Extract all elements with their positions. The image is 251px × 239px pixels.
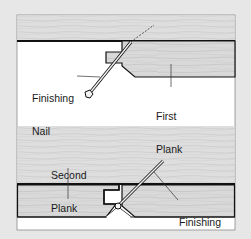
bottom-plank-label-line1: Second [51,170,87,181]
top-plank-label-line1: First [156,111,182,122]
bottom-nail-label: Finishing Nail [179,195,221,239]
top-nail-label-line1: Finishing [32,93,74,104]
top-nail-label-line2: Nail [32,126,74,137]
bottom-nail-label-line1: Finishing [179,217,221,228]
top-plank-label: First Plank [156,89,182,166]
top-plank-label-line2: Plank [156,144,182,155]
top-wood-band [18,16,235,41]
bottom-plank-label: Second Plank [51,148,87,225]
top-nail-label: Finishing Nail [32,71,74,148]
bottom-plank-label-line2: Plank [51,203,87,214]
